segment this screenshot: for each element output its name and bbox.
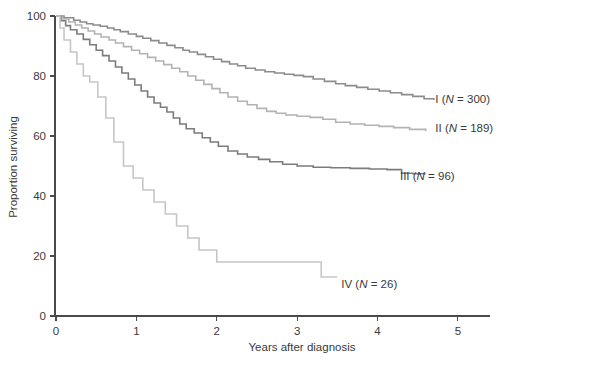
y-axis-title: Proportion surviving [7, 116, 19, 218]
x-tick-label: 4 [374, 325, 381, 337]
survival-chart-figure: 020406080100012345 I (N = 300)II (N = 18… [0, 0, 599, 367]
x-tick-label: 5 [455, 325, 461, 337]
y-tick-label: 20 [33, 250, 46, 262]
x-tick-label: 3 [294, 325, 300, 337]
y-tick-label: 40 [33, 190, 46, 202]
x-tick-label: 0 [53, 325, 59, 337]
y-tick-label: 100 [27, 10, 46, 22]
x-tick-label: 1 [133, 325, 139, 337]
series-label-stage-II: II (N = 189) [435, 122, 493, 134]
curves-group [56, 16, 434, 277]
series-labels-group: I (N = 300)II (N = 189)III (N = 96)IV (N… [341, 93, 493, 290]
series-label-stage-I: I (N = 300) [435, 93, 490, 105]
survival-curve-stage-I [56, 16, 434, 100]
x-tick-label: 2 [214, 325, 220, 337]
x-axis-title: Years after diagnosis [249, 341, 356, 353]
chart-canvas: 020406080100012345 I (N = 300)II (N = 18… [0, 0, 599, 367]
y-tick-label: 0 [40, 310, 46, 322]
survival-curve-stage-II [56, 16, 426, 131]
y-tick-label: 60 [33, 130, 46, 142]
series-label-stage-III: III (N = 96) [400, 170, 455, 182]
series-label-stage-IV: IV (N = 26) [341, 278, 397, 290]
y-tick-label: 80 [33, 70, 46, 82]
